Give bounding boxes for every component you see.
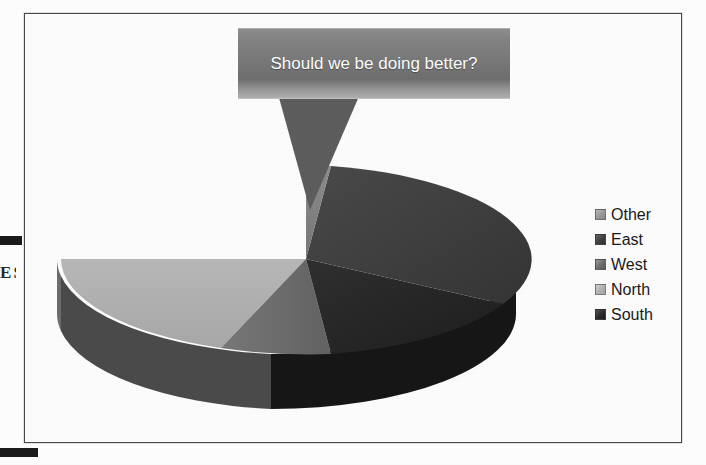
- legend-swatch-west-icon: [595, 259, 606, 270]
- callout-text: Should we be doing better?: [238, 28, 510, 99]
- legend-item-east[interactable]: East: [595, 227, 681, 252]
- page-edge-artifact-top: [0, 236, 22, 245]
- legend-swatch-other-icon: [595, 209, 606, 220]
- legend-label-south: South: [611, 307, 653, 323]
- legend-label-north: North: [611, 282, 650, 298]
- legend-label-east: East: [611, 232, 643, 248]
- page-edge-artifact-bottom: [0, 448, 38, 457]
- legend-item-south[interactable]: South: [595, 302, 681, 327]
- plot-area: Should we be doing better? Other East We…: [25, 14, 681, 442]
- legend-label-other: Other: [611, 207, 651, 223]
- legend-swatch-south-icon: [595, 309, 606, 320]
- legend-swatch-east-icon: [595, 234, 606, 245]
- legend-label-west: West: [611, 257, 647, 273]
- legend-item-west[interactable]: West: [595, 252, 681, 277]
- chart-frame: Should we be doing better? Other East We…: [24, 13, 682, 443]
- legend-item-north[interactable]: North: [595, 277, 681, 302]
- legend-swatch-north-icon: [595, 284, 606, 295]
- pie-wall-north: [57, 259, 61, 331]
- page-edge-glyph-fragments: E S: [0, 262, 16, 283]
- chart-legend: Other East West North South: [595, 202, 681, 327]
- legend-item-other[interactable]: Other: [595, 202, 681, 227]
- callout-annotation[interactable]: Should we be doing better?: [238, 28, 510, 99]
